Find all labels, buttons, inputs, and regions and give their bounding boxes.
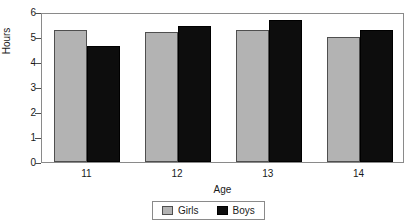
- y-axis-tick-label: 6: [12, 8, 36, 18]
- bar-girls-13: [236, 30, 269, 162]
- legend: GirlsBoys: [152, 201, 265, 220]
- x-axis-tick-label: 13: [248, 168, 288, 180]
- y-axis-tick-label: 0: [12, 158, 36, 168]
- legend-swatch-girls: [162, 206, 173, 215]
- bar-boys-14: [360, 30, 393, 163]
- legend-label-girls: Girls: [178, 205, 199, 216]
- x-axis-tick-label: 12: [157, 168, 197, 180]
- y-axis-tick-label: 3: [12, 83, 36, 93]
- y-axis-tick-label: 4: [12, 58, 36, 68]
- bar-chart: Hours 6543210 11121314 Age GirlsBoys: [0, 0, 418, 224]
- bar-girls-11: [54, 30, 87, 163]
- legend-swatch-boys: [217, 206, 228, 215]
- y-axis-tick-label: 1: [12, 133, 36, 143]
- bars-container: [42, 14, 403, 162]
- bar-boys-12: [178, 26, 211, 162]
- bar-boys-13: [269, 20, 302, 163]
- y-axis-tick-mark: [35, 163, 41, 164]
- x-axis-tick-label: 11: [66, 168, 106, 180]
- bar-girls-12: [145, 32, 178, 162]
- bar-girls-14: [327, 37, 360, 162]
- bar-boys-11: [87, 46, 120, 162]
- x-axis-tick-label: 14: [339, 168, 379, 180]
- legend-entry-girls: Girls: [162, 205, 199, 216]
- legend-label-boys: Boys: [233, 205, 255, 216]
- y-axis-tick-label: 5: [12, 33, 36, 43]
- y-axis-tick-label: 2: [12, 108, 36, 118]
- x-axis-title: Age: [41, 184, 404, 196]
- legend-entry-boys: Boys: [217, 205, 255, 216]
- plot-area: [41, 13, 404, 163]
